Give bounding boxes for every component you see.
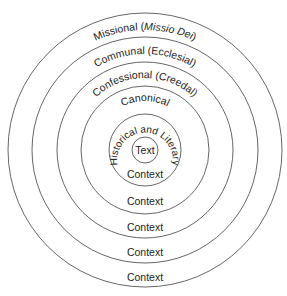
label-missional: Missional (Missio Dei) bbox=[92, 20, 199, 43]
context-label-missional: Context bbox=[127, 271, 163, 283]
center-text-label: Text bbox=[135, 144, 154, 156]
label-canonical: Canonical bbox=[119, 91, 172, 108]
context-label-historical: Context bbox=[127, 168, 163, 180]
context-label-canonical: Context bbox=[127, 195, 163, 207]
concentric-context-diagram: Text Missional (Missio Dei) Communal (Ec… bbox=[0, 0, 287, 296]
context-label-confessional: Context bbox=[127, 221, 163, 233]
label-communal: Communal (Ecclesial) bbox=[92, 44, 199, 69]
context-label-communal: Context bbox=[127, 246, 163, 258]
